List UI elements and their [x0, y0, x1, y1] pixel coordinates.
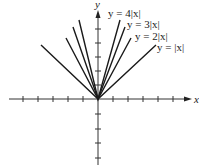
y-axis-label: y [94, 0, 100, 10]
graph-canvas: y x y = 4|x| y = 3|x| y = 2|x| y = |x| [0, 0, 199, 168]
y-axis-arrow-icon [96, 10, 101, 18]
x-axis-arrow-icon [184, 97, 192, 102]
label-curve-1: y = |x| [157, 41, 184, 53]
x-axis-label: x [193, 93, 199, 105]
label-curve-3: y = 3|x| [127, 18, 160, 30]
